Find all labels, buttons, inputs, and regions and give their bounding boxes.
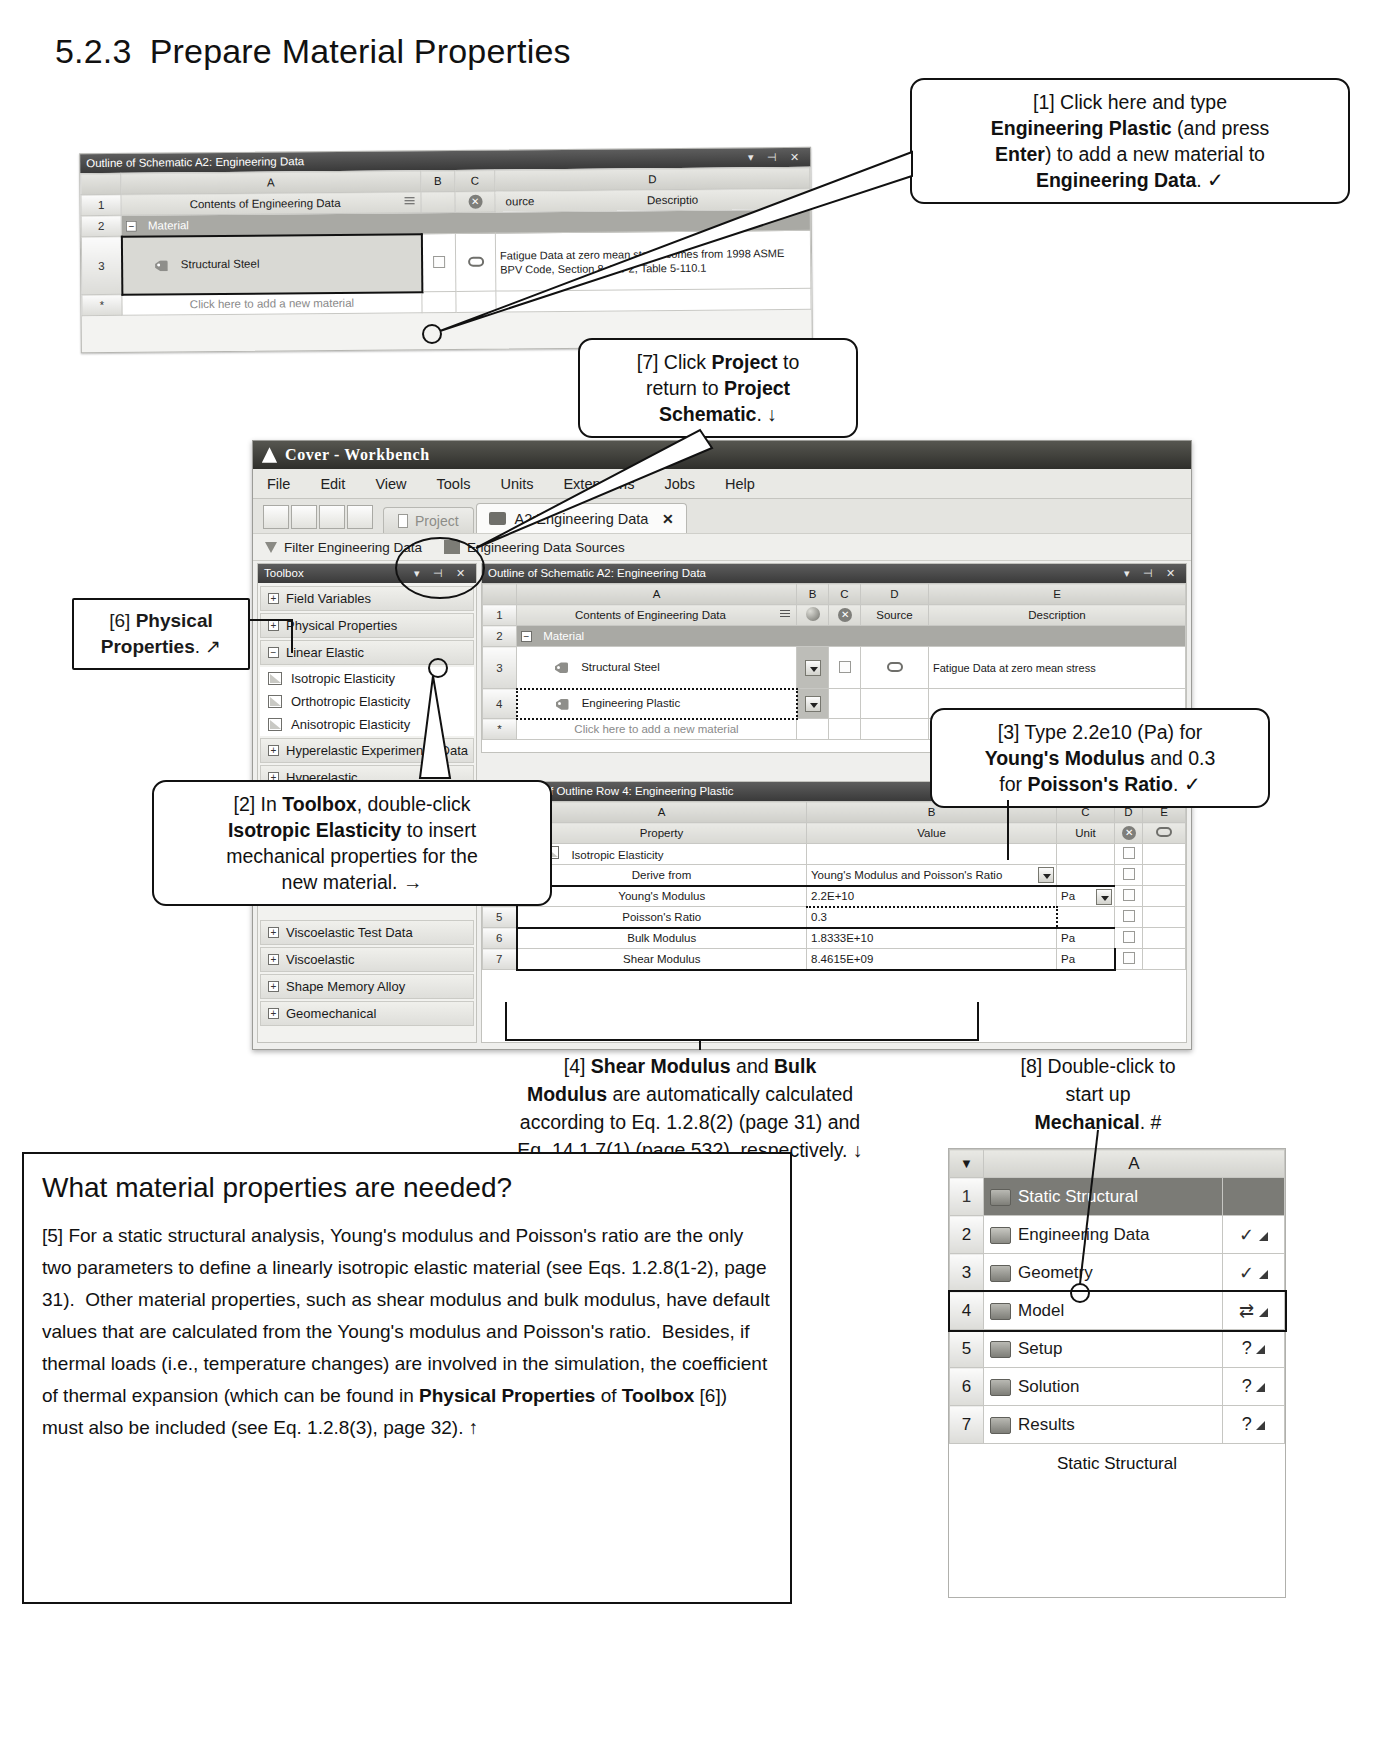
col-b[interactable]: B: [797, 584, 829, 605]
tab-project[interactable]: Project: [383, 507, 474, 533]
checkbox[interactable]: [839, 661, 851, 673]
collapse-icon[interactable]: −: [521, 631, 532, 642]
table-row-shear-modulus[interactable]: 7 Shear Modulus 8.4615E+09 Pa: [483, 949, 1186, 970]
col-c[interactable]: C: [829, 584, 861, 605]
dropdown-button[interactable]: [1038, 867, 1054, 883]
menu-item-extensions[interactable]: Extensions: [563, 476, 634, 492]
save-icon[interactable]: [319, 505, 345, 529]
toolbox-group-physical-properties[interactable]: + Physical Properties: [260, 613, 474, 638]
property-value[interactable]: 1.8333E+10: [807, 928, 1057, 949]
schematic-row-results[interactable]: 7 Results ?: [950, 1406, 1285, 1444]
suppress-icon[interactable]: ✕: [838, 608, 852, 622]
table-row-structural-steel[interactable]: 3 Structural Steel Fatigue Data at zero …: [483, 647, 1186, 689]
property-value[interactable]: [807, 844, 1057, 865]
table-row-bulk-modulus[interactable]: 6 Bulk Modulus 1.8333E+10 Pa: [483, 928, 1186, 949]
save-as-icon[interactable]: [347, 505, 373, 529]
collapse-icon[interactable]: −: [268, 647, 279, 658]
dropdown-button[interactable]: [805, 660, 821, 676]
table-row-header[interactable]: 1 Property Value Unit ✕: [483, 823, 1186, 844]
checkbox[interactable]: [1123, 931, 1135, 943]
toolbox-group-shape-memory-alloy[interactable]: + Shape Memory Alloy: [260, 974, 474, 999]
property-value[interactable]: Young's Modulus and Poisson's Ratio: [811, 869, 1002, 881]
expand-corner-icon[interactable]: [1256, 1345, 1265, 1354]
new-file-icon[interactable]: [263, 505, 289, 529]
checkbox[interactable]: [433, 256, 445, 268]
col-a[interactable]: A: [517, 584, 797, 605]
col-a[interactable]: A: [517, 802, 807, 823]
toolbox-item-orthotropic-elasticity[interactable]: Orthotropic Elasticity: [260, 690, 474, 713]
expand-icon[interactable]: +: [268, 593, 279, 604]
toolbox-group-viscoelastic[interactable]: + Viscoelastic: [260, 947, 474, 972]
menu-item-file[interactable]: File: [267, 476, 290, 492]
close-icon[interactable]: ✕: [662, 511, 674, 527]
expand-icon[interactable]: +: [268, 620, 279, 631]
menu-item-tools[interactable]: Tools: [437, 476, 471, 492]
corner-cell[interactable]: ▼: [950, 1150, 984, 1178]
col-a[interactable]: A: [121, 171, 421, 195]
outline-window-controls[interactable]: ▾ ⊣ ✕: [1124, 566, 1180, 581]
menu-item-jobs[interactable]: Jobs: [664, 476, 695, 492]
checkbox[interactable]: [1123, 868, 1135, 880]
table-row-material-group[interactable]: 2 − Material: [483, 626, 1186, 647]
add-new-material-cell[interactable]: Click here to add a new material: [122, 292, 422, 316]
tab-engineering-data[interactable]: A2:Engineering Data ✕: [476, 503, 688, 533]
sphere-icon[interactable]: [806, 607, 820, 621]
filter-engineering-data-label[interactable]: Filter Engineering Data: [284, 540, 422, 555]
table-row-poissons-ratio[interactable]: 5 Poisson's Ratio 0.3: [483, 907, 1186, 928]
sort-icon[interactable]: [780, 609, 792, 621]
schematic-row-engineering-data[interactable]: 2 Engineering Data ✓: [950, 1216, 1285, 1254]
table-row-youngs-modulus[interactable]: 4 Young's Modulus 2.2E+10 Pa: [483, 886, 1186, 907]
property-value[interactable]: 2.2E+10: [807, 886, 1057, 907]
table-row-derive-from[interactable]: 3 Derive from Young's Modulus and Poisso…: [483, 865, 1186, 886]
toolbox-group-linear-elastic[interactable]: − Linear Elastic: [260, 640, 474, 665]
toolbox-group-hyperelastic-experimental-data[interactable]: + Hyperelastic Experimental Data: [260, 738, 474, 763]
col-d[interactable]: D: [495, 167, 810, 191]
schematic-row-geometry[interactable]: 3 Geometry ✓: [950, 1254, 1285, 1292]
toolbox-item-isotropic-elasticity[interactable]: Isotropic Elasticity: [260, 667, 474, 690]
expand-icon[interactable]: +: [268, 745, 279, 756]
unit-dropdown-button[interactable]: [1096, 889, 1112, 905]
col-d[interactable]: D: [861, 584, 929, 605]
table-row-isotropic-elasticity[interactable]: 2 − Isotropic Elasticity: [483, 844, 1186, 865]
expand-corner-icon[interactable]: [1259, 1308, 1268, 1317]
window-controls[interactable]: ▾ ⊣ ✕: [748, 150, 804, 165]
toolbox-window-controls[interactable]: ▾ ⊣ ✕: [414, 566, 470, 581]
schematic-row-model[interactable]: 4 Model ⇄: [950, 1292, 1285, 1330]
col-c[interactable]: C: [455, 170, 495, 191]
toolbox-group-field-variables[interactable]: + Field Variables: [260, 586, 474, 611]
checkbox[interactable]: [1123, 847, 1135, 859]
engineering-data-sources-label[interactable]: Engineering Data Sources: [467, 540, 625, 555]
checkbox[interactable]: [1123, 889, 1135, 901]
checkbox[interactable]: [1123, 952, 1135, 964]
expand-icon[interactable]: +: [268, 981, 279, 992]
col-b[interactable]: B: [421, 170, 455, 191]
schematic-row-static-structural[interactable]: 1 Static Structural: [950, 1178, 1285, 1216]
toolbox-item-anisotropic-elasticity[interactable]: Anisotropic Elasticity: [260, 713, 474, 736]
sort-icon[interactable]: [405, 196, 417, 208]
property-value[interactable]: 0.3: [807, 907, 1057, 928]
toolbox-group-viscoelastic-test-data[interactable]: + Viscoelastic Test Data: [260, 920, 474, 945]
checkbox[interactable]: [1123, 910, 1135, 922]
expand-corner-icon[interactable]: [1256, 1421, 1265, 1430]
expand-icon[interactable]: +: [268, 927, 279, 938]
expand-corner-icon[interactable]: [1256, 1383, 1265, 1392]
menu-item-help[interactable]: Help: [725, 476, 755, 492]
expand-corner-icon[interactable]: [1259, 1232, 1268, 1241]
col-a[interactable]: A: [984, 1150, 1285, 1178]
schematic-row-setup[interactable]: 5 Setup ?: [950, 1330, 1285, 1368]
open-folder-icon[interactable]: [291, 505, 317, 529]
toolbox-group-geomechanical[interactable]: + Geomechanical: [260, 1001, 474, 1026]
schematic-row-solution[interactable]: 6 Solution ?: [950, 1368, 1285, 1406]
property-value[interactable]: 8.4615E+09: [807, 949, 1057, 970]
add-new-material-cell[interactable]: Click here to add a new material: [517, 719, 797, 740]
suppress-icon[interactable]: ✕: [1122, 826, 1136, 840]
suppress-icon[interactable]: ✕: [468, 195, 482, 209]
dropdown-button[interactable]: [805, 696, 821, 712]
menu-item-view[interactable]: View: [375, 476, 406, 492]
table-row-header[interactable]: 1 Contents of Engineering Data ✕ Source …: [483, 605, 1186, 626]
col-e[interactable]: E: [929, 584, 1186, 605]
expand-corner-icon[interactable]: [1259, 1270, 1268, 1279]
table-row-structural-steel[interactable]: 3 Structural Steel Fatigue Data at zero …: [81, 230, 810, 294]
menu-item-units[interactable]: Units: [500, 476, 533, 492]
menu-item-edit[interactable]: Edit: [320, 476, 345, 492]
